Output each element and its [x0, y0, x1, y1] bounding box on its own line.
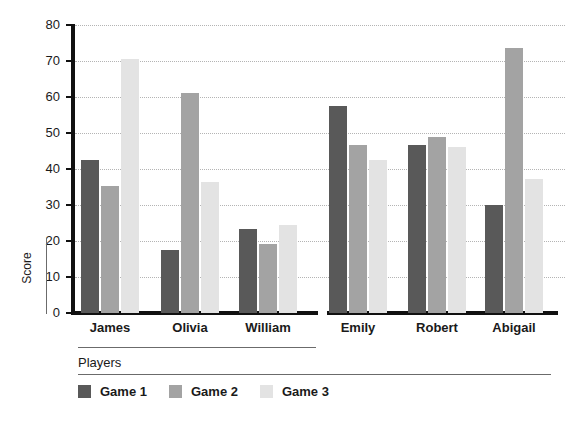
bar[interactable] — [181, 93, 199, 313]
bar[interactable] — [428, 137, 446, 313]
x-axis-category-label: Emily — [313, 320, 403, 335]
legend-item[interactable]: Game 2 — [169, 384, 238, 399]
y-axis-title: Score — [21, 233, 33, 303]
bar[interactable] — [485, 205, 503, 313]
x-axis-category-label: James — [65, 320, 155, 335]
bar-group — [329, 25, 387, 313]
legend-label: Game 2 — [191, 384, 238, 399]
bar-group — [81, 25, 139, 313]
y-tick-label: 70 — [14, 54, 60, 67]
y-tick-label: 40 — [14, 162, 60, 175]
bar[interactable] — [101, 186, 119, 313]
bar[interactable] — [201, 182, 219, 313]
legend-item[interactable]: Game 3 — [260, 384, 329, 399]
legend-label: Game 3 — [282, 384, 329, 399]
legend-swatch — [260, 385, 273, 398]
bar[interactable] — [259, 244, 277, 313]
x-axis-title-rule — [78, 347, 316, 348]
x-axis-title: Players — [78, 355, 121, 370]
legend-label: Game 1 — [100, 384, 147, 399]
bar[interactable] — [349, 145, 367, 313]
y-tick-label: 80 — [14, 18, 60, 31]
bar[interactable] — [329, 106, 347, 313]
bar[interactable] — [505, 48, 523, 313]
bar[interactable] — [448, 147, 466, 313]
bar[interactable] — [369, 160, 387, 313]
y-tick-label: 30 — [14, 198, 60, 211]
x-axis-category-label: Olivia — [145, 320, 235, 335]
legend-swatch — [169, 385, 182, 398]
bar-group — [161, 25, 219, 313]
y-tick-label: 50 — [14, 126, 60, 139]
bar-chart: 80706050403020100 JamesOliviaWilliamEmil… — [0, 0, 573, 426]
bar[interactable] — [239, 229, 257, 313]
legend-rule — [78, 374, 551, 375]
y-axis-title-rule — [46, 238, 47, 314]
plot-area — [75, 25, 565, 313]
bar[interactable] — [121, 59, 139, 313]
legend-swatch — [78, 385, 91, 398]
x-axis-category-label: William — [223, 320, 313, 335]
bar-group — [408, 25, 466, 313]
bar[interactable] — [279, 225, 297, 313]
bar[interactable] — [161, 250, 179, 313]
y-tick-label: 0 — [14, 306, 60, 319]
bar[interactable] — [525, 179, 543, 313]
bar-group — [239, 25, 297, 313]
y-tick-label: 60 — [14, 90, 60, 103]
legend: Game 1Game 2Game 3 — [78, 384, 351, 399]
bar[interactable] — [408, 145, 426, 313]
x-axis-category-label: Abigail — [469, 320, 559, 335]
bar[interactable] — [81, 160, 99, 313]
bar-group — [485, 25, 543, 313]
legend-item[interactable]: Game 1 — [78, 384, 147, 399]
